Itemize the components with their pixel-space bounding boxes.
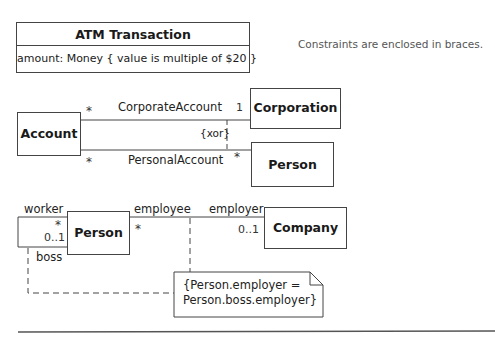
- atm-transaction-class-name: ATM Transaction: [17, 27, 249, 42]
- constraint-note-line1: {Person.employer =: [183, 278, 300, 293]
- corporate-mult-corporation: 1: [236, 101, 243, 114]
- atm-class-divider: [17, 45, 249, 46]
- worker-role-label: worker: [24, 202, 63, 216]
- account-class-name: Account: [18, 126, 80, 141]
- person-class-xor: Person: [251, 142, 334, 187]
- worker-multiplicity: *: [55, 218, 61, 232]
- bottom-divider: [18, 331, 495, 332]
- employee-role-label: employee: [134, 202, 191, 216]
- constraints-hint-text: Constraints are enclosed in braces.: [298, 38, 483, 50]
- employer-role-label: employer: [209, 202, 263, 216]
- atm-transaction-class: ATM Transaction amount: Money { value is…: [16, 22, 250, 73]
- person-class-employment: Person: [67, 211, 130, 255]
- company-class-name: Company: [265, 220, 346, 235]
- corporate-mult-account: *: [86, 104, 92, 118]
- atm-amount-attribute: amount: Money { value is multiple of $20…: [17, 52, 249, 65]
- person-class-name-xor: Person: [252, 157, 333, 172]
- account-class: Account: [17, 112, 81, 156]
- company-class: Company: [264, 207, 347, 249]
- person-class-name-employment: Person: [68, 225, 129, 240]
- employee-multiplicity: *: [135, 222, 141, 236]
- corporate-account-label: CorporateAccount: [118, 100, 222, 114]
- boss-role-label: boss: [36, 250, 62, 264]
- constraint-note-line2: Person.boss.employer}: [183, 293, 317, 308]
- personal-mult-account: *: [86, 155, 92, 169]
- xor-constraint-label: {xor}: [200, 127, 230, 139]
- employer-multiplicity: 0..1: [238, 223, 259, 236]
- corporation-class-name: Corporation: [251, 100, 340, 115]
- boss-multiplicity: 0..1: [44, 231, 65, 244]
- personal-account-label: PersonalAccount: [128, 153, 223, 167]
- personal-mult-person: *: [234, 150, 240, 164]
- corporation-class: Corporation: [250, 88, 341, 129]
